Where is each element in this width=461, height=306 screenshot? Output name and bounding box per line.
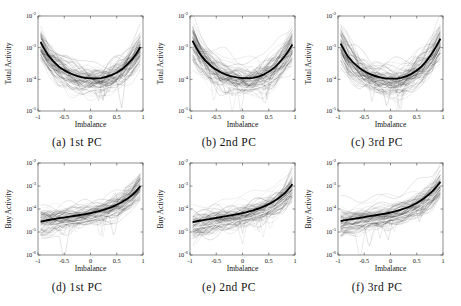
subplot-c: -1-0.500.5110-210-310-410-5ImbalanceTota… [302,1,452,148]
svg-text:-1: -1 [335,257,340,264]
x-axis-label: Imbalance [375,120,407,129]
svg-text:10-5: 10-5 [26,227,37,235]
svg-text:0.5: 0.5 [113,257,121,264]
svg-text:-1: -1 [187,257,192,264]
svg-text:1: 1 [441,257,444,264]
svg-text:10-4: 10-4 [178,204,189,212]
subplot-c-caption: (c) 3rd PC [302,136,452,148]
svg-text:-0.5: -0.5 [59,257,69,264]
subplot-b: -1-0.500.5110-210-310-410-5ImbalanceTota… [154,1,304,148]
y-axis-label: Total Activity [304,42,313,84]
ensemble-curves [341,164,441,257]
y-axis-label: Total Activity [156,42,165,84]
svg-text:10-2: 10-2 [178,11,189,19]
svg-text:-1: -1 [187,113,192,120]
x-axis-label: Imbalance [375,264,407,273]
svg-text:10-2: 10-2 [178,158,189,166]
svg-text:10-3: 10-3 [326,181,337,189]
subplot-d-caption: (d) 1st PC [2,281,152,293]
chart-b-canvas: -1-0.500.5110-210-310-410-5ImbalanceTota… [154,1,304,134]
chart-e-canvas: -1-0.500.5110-210-310-410-510-6Imbalance… [154,153,304,278]
svg-text:0.5: 0.5 [413,257,421,264]
svg-text:10-3: 10-3 [178,181,189,189]
subplot-e-caption: (e) 2nd PC [154,281,304,293]
svg-text:0: 0 [389,113,392,120]
svg-text:10-4: 10-4 [326,204,337,212]
chart-a-canvas: -1-0.500.5110-210-310-410-5ImbalanceTota… [2,1,152,134]
svg-text:10-3: 10-3 [178,43,189,51]
svg-text:1: 1 [293,113,296,120]
svg-text:-0.5: -0.5 [359,257,369,264]
svg-text:1: 1 [293,257,296,264]
svg-text:0: 0 [89,113,92,120]
chart-c-canvas: -1-0.500.5110-210-310-410-5ImbalanceTota… [302,1,452,134]
x-axis-label: Imbalance [227,264,259,273]
svg-text:10-5: 10-5 [178,227,189,235]
subplot-f: -1-0.500.5110-210-310-410-510-6Imbalance… [302,153,452,293]
svg-text:10-2: 10-2 [326,158,337,166]
svg-text:-1: -1 [335,113,340,120]
y-axis-label: Total Activity [4,42,13,84]
svg-text:-0.5: -0.5 [211,113,221,120]
chart-f-canvas: -1-0.500.5110-210-310-410-510-6Imbalance… [302,153,452,278]
x-axis-label: Imbalance [227,120,259,129]
chart-d-canvas: -1-0.500.5110-210-310-410-510-6Imbalance… [2,153,152,278]
ensemble-curves [41,24,141,109]
svg-text:0: 0 [241,113,244,120]
svg-text:-1: -1 [35,113,40,120]
ensemble-curves [193,13,293,112]
svg-text:10-3: 10-3 [326,43,337,51]
svg-text:10-4: 10-4 [326,75,337,83]
svg-text:10-4: 10-4 [178,75,189,83]
ensemble-curves [193,166,293,246]
svg-text:-0.5: -0.5 [359,113,369,120]
y-axis-label: Buy Activity [304,189,313,228]
svg-text:-0.5: -0.5 [59,113,69,120]
svg-text:10-4: 10-4 [26,204,37,212]
ensemble-curves [41,173,141,258]
subplot-e: -1-0.500.5110-210-310-410-510-6Imbalance… [154,153,304,293]
svg-text:10-2: 10-2 [26,11,37,19]
svg-text:0: 0 [389,257,392,264]
y-axis-label: Buy Activity [4,189,13,228]
svg-text:10-3: 10-3 [26,43,37,51]
svg-text:1: 1 [141,113,144,120]
figure-panel: -1-0.500.5110-210-310-410-5ImbalanceTota… [0,0,461,306]
svg-text:0.5: 0.5 [413,113,421,120]
svg-text:0.5: 0.5 [113,113,121,120]
svg-text:-1: -1 [35,257,40,264]
y-axis-label: Buy Activity [156,189,165,228]
subplot-a-caption: (a) 1st PC [2,136,152,148]
svg-text:10-4: 10-4 [26,75,37,83]
svg-text:0.5: 0.5 [265,257,273,264]
subplot-d: -1-0.500.5110-210-310-410-510-6Imbalance… [2,153,152,293]
svg-text:0: 0 [89,257,92,264]
svg-text:1: 1 [441,113,444,120]
svg-text:10-2: 10-2 [326,11,337,19]
x-axis-label: Imbalance [75,120,107,129]
svg-text:10-3: 10-3 [26,181,37,189]
subplot-f-caption: (f) 3rd PC [302,281,452,293]
ensemble-curves [341,14,441,111]
svg-text:0.5: 0.5 [265,113,273,120]
svg-text:-0.5: -0.5 [211,257,221,264]
svg-text:10-2: 10-2 [26,158,37,166]
subplot-a: -1-0.500.5110-210-310-410-5ImbalanceTota… [2,1,152,148]
svg-text:0: 0 [241,257,244,264]
svg-text:1: 1 [141,257,144,264]
subplot-b-caption: (b) 2nd PC [154,136,304,148]
svg-text:10-5: 10-5 [326,227,337,235]
x-axis-label: Imbalance [75,264,107,273]
